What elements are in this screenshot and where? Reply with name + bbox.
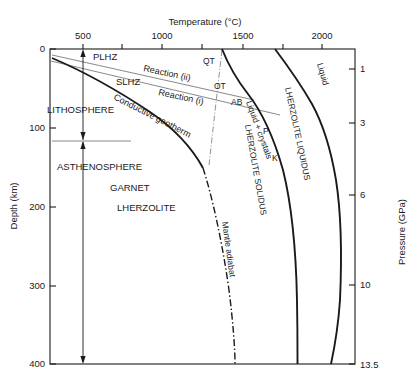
label-asthenosphere: ASTHENOSPHERE (57, 161, 142, 172)
label-ot: OT (214, 81, 226, 91)
label-reaction-ii: Reaction (ii) (143, 63, 192, 83)
x-tick-label-1500: 1500 (232, 30, 253, 41)
y2-tick-label-6: 6 (360, 189, 365, 200)
phase-diagram: 500 1000 1500 2000 Temperature (°C) 0 10… (0, 0, 420, 386)
y2-axis-title: Pressure (GPa) (396, 199, 407, 265)
x-tick-label-1000: 1000 (151, 30, 172, 41)
y2-tick-label-10: 10 (360, 279, 371, 290)
x-axis-top: 500 1000 1500 2000 Temperature (°C) (75, 16, 333, 49)
figure-container: 500 1000 1500 2000 Temperature (°C) 0 10… (0, 0, 420, 386)
label-lherzolite-liquidus: LHERZOLITE LIQUIDUS (283, 86, 313, 181)
x-tick-label-500: 500 (75, 30, 91, 41)
label-plhz: PLHZ (93, 51, 117, 62)
y2-tick-label-1: 1 (360, 63, 365, 74)
label-lherzolite: LHERZOLITE (117, 202, 176, 213)
label-slhz: SLHZ (116, 76, 140, 87)
label-liquid: Liquid (315, 62, 331, 87)
x-axis-title: Temperature (°C) (169, 16, 242, 27)
label-reaction-i: Reaction (i) (158, 87, 205, 106)
y-axis-right: 1 3 6 10 13.5 Pressure (GPa) (349, 63, 407, 370)
y-tick-label-0: 0 (40, 43, 45, 54)
label-lithosphere: LITHOSPHERE (47, 104, 114, 115)
label-garnet: GARNET (110, 182, 150, 193)
y2-tick-label-3: 3 (360, 117, 365, 128)
x-tick-label-2000: 2000 (311, 30, 332, 41)
y-tick-label-100: 100 (29, 122, 45, 133)
curve-adiabat-extension (209, 50, 222, 165)
curve-reaction-ii (52, 55, 254, 100)
y2-tick-label-13-5: 13.5 (360, 359, 379, 370)
y-axis-left: 0 100 200 300 400 Depth (km) (8, 43, 56, 369)
label-qt: QT (203, 56, 215, 66)
y-tick-label-400: 400 (29, 358, 45, 369)
y-tick-label-200: 200 (29, 201, 45, 212)
y-tick-label-300: 300 (29, 280, 45, 291)
asthenosphere-depth-arrow (80, 141, 85, 364)
y-axis-title: Depth (km) (8, 183, 19, 230)
label-ab: AB (231, 97, 243, 107)
